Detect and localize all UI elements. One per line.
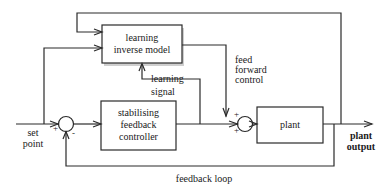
control-block-diagram: learning inverse model stabilising feedb… (0, 0, 390, 192)
feed-forward-label-3: control (235, 74, 264, 85)
learning-inverse-model-block: learning inverse model (102, 25, 184, 66)
feedback-loop-label: feedback loop (176, 173, 232, 184)
right-summing-junction (238, 117, 253, 132)
learning-signal-label-2: signal (151, 86, 175, 97)
left-plus-sign: + (53, 123, 58, 133)
stabilising-feedback-controller-block: stabilising feedback controller (101, 101, 176, 150)
right-plus-left-sign: + (234, 125, 239, 135)
plant-label: plant (280, 119, 300, 130)
controller-line3: controller (119, 131, 159, 142)
controller-line1: stabilising (118, 107, 159, 118)
set-point-label-1: set (27, 127, 38, 138)
feed-forward-line (182, 45, 226, 117)
right-plus-top-sign: + (234, 109, 239, 119)
plant-output-label-1: plant (350, 130, 373, 141)
learning-inverse-model-line1: learning (126, 32, 159, 43)
plant-block: plant (257, 107, 323, 143)
setpoint-to-model-line (44, 48, 102, 124)
left-minus-sign: - (72, 128, 75, 138)
set-point-label-2: point (23, 138, 44, 149)
controller-line2: feedback (120, 119, 156, 130)
learning-inverse-model-line2: inverse model (114, 44, 171, 55)
learning-signal-label-1: learning (151, 73, 184, 84)
plant-output-label-2: output (347, 141, 376, 152)
